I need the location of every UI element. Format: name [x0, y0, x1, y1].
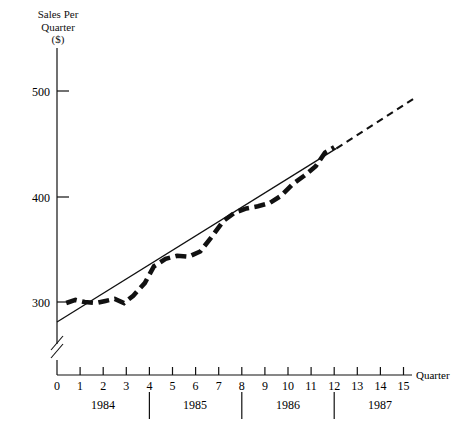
- x-tick-label-14: 14: [374, 379, 386, 393]
- x-tick-marks: [80, 367, 403, 375]
- x-tick-label-3: 3: [123, 379, 129, 393]
- y-tick-label-400: 400: [32, 191, 50, 205]
- sales-trend-chart: Sales Per Quarter ($) 500 400 300: [0, 0, 451, 427]
- x-axis-title: Quarter: [416, 369, 450, 381]
- series-line-trend: [57, 148, 337, 322]
- y-tick-marks: [57, 91, 69, 302]
- year-label-1985: 1985: [183, 398, 207, 412]
- year-label-1984: 1984: [91, 398, 115, 412]
- x-tick-label-1: 1: [77, 379, 83, 393]
- y-tick-label-500: 500: [32, 85, 50, 99]
- x-tick-label-15: 15: [398, 379, 410, 393]
- x-tick-label-13: 13: [351, 379, 363, 393]
- x-tick-label-4: 4: [146, 379, 152, 393]
- x-tick-label-10: 10: [282, 379, 294, 393]
- series-line-actual-sales: [66, 147, 334, 303]
- x-tick-label-12: 12: [328, 379, 340, 393]
- year-label-1987: 1987: [368, 398, 392, 412]
- y-tick-label-300: 300: [32, 296, 50, 310]
- x-tick-label-6: 6: [193, 379, 199, 393]
- chart-canvas: 500 400 300 0 1 2 3 4 5: [0, 0, 451, 427]
- year-label-1986: 1986: [276, 398, 300, 412]
- series-line-trend-projection: [337, 98, 416, 149]
- x-tick-label-11: 11: [305, 379, 317, 393]
- x-tick-label-2: 2: [100, 379, 106, 393]
- x-tick-label-7: 7: [216, 379, 222, 393]
- year-separator-marks: [149, 392, 334, 419]
- x-tick-label-5: 5: [170, 379, 176, 393]
- x-tick-label-9: 9: [262, 379, 268, 393]
- x-tick-label-8: 8: [239, 379, 245, 393]
- x-tick-labels: 0 1 2 3 4 5 6 7 8 9 10 11 12 13 14 15: [54, 379, 410, 393]
- x-tick-label-0: 0: [54, 379, 60, 393]
